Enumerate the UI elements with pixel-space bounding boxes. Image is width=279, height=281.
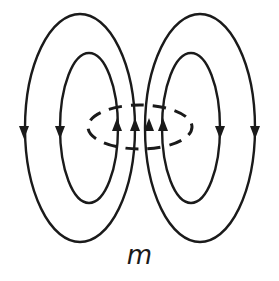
arrow-up-icon xyxy=(158,118,168,131)
arrow-down-icon xyxy=(19,126,29,139)
arrow-up-icon xyxy=(112,118,122,131)
inner-left-field-loop xyxy=(60,53,118,203)
arrow-down-icon xyxy=(250,126,260,139)
arrow-up-icon xyxy=(130,118,140,131)
arrow-down-icon xyxy=(55,126,65,139)
dipole-field-diagram xyxy=(0,0,279,281)
arrow-down-icon xyxy=(215,126,225,139)
current-loop-dashed-ellipse xyxy=(88,105,192,149)
magnetic-moment-label: m xyxy=(0,240,279,270)
